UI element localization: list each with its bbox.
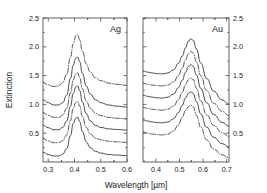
curves-ag <box>43 35 127 156</box>
ytick-label-au-2: 1.5 <box>233 71 243 80</box>
panel-ag: 0.30.40.50.60.51.01.52.02.5Ag <box>29 14 132 174</box>
xtick-label-au-1: 0.5 <box>175 165 185 174</box>
xtick-label-au-3: 0.7 <box>222 165 232 174</box>
curves-au <box>143 39 229 158</box>
curve-ag-5 <box>43 102 127 143</box>
y-axis-label: Extinction <box>4 72 14 109</box>
xtick-label-ag-2: 0.5 <box>96 165 106 174</box>
curve-au-4 <box>143 78 229 136</box>
ytick-label-au-4: 2.5 <box>233 14 243 23</box>
panel-title-au: Au <box>212 24 223 34</box>
curve-au-5 <box>143 92 229 147</box>
ytick-label-ag-0: 0.5 <box>29 129 39 138</box>
ytick-label-ag-2: 1.5 <box>29 71 39 80</box>
curve-ag-1 <box>43 35 127 87</box>
extinction-spectra-figure: 0.30.40.50.60.51.01.52.02.5Ag0.40.50.60.… <box>0 0 267 193</box>
ytick-label-ag-3: 2.0 <box>29 42 39 51</box>
xtick-label-au-2: 0.6 <box>198 165 208 174</box>
x-axis-label: Wavelength [µm] <box>105 180 168 190</box>
curve-au-6 <box>143 105 229 158</box>
xtick-label-ag-1: 0.4 <box>70 165 80 174</box>
curve-ag-6 <box>43 117 127 156</box>
chart-svg: 0.30.40.50.60.51.01.52.02.5Ag0.40.50.60.… <box>0 0 267 193</box>
ytick-label-au-1: 1.0 <box>233 100 243 109</box>
xtick-label-ag-0: 0.3 <box>43 165 53 174</box>
ytick-label-ag-4: 2.5 <box>29 14 39 23</box>
panel-au: 0.40.50.60.70.51.01.52.02.5Au <box>143 14 243 174</box>
panel-title-ag: Ag <box>110 24 121 34</box>
curve-au-2 <box>143 51 229 115</box>
ytick-label-au-0: 0.5 <box>233 129 243 138</box>
plot-frame-au <box>143 18 229 162</box>
xtick-label-ag-3: 0.6 <box>122 165 132 174</box>
ytick-label-ag-1: 1.0 <box>29 100 39 109</box>
ytick-label-au-3: 2.0 <box>233 42 243 51</box>
xtick-label-au-0: 0.4 <box>151 165 161 174</box>
